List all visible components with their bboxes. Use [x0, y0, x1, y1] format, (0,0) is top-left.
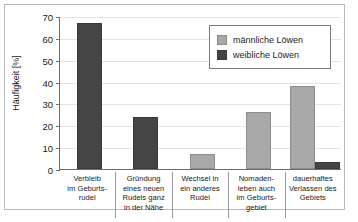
bar-male-2	[190, 154, 215, 169]
x-label-line: Nomaden-	[239, 174, 274, 183]
legend-label-female: weibliche Löwen	[233, 50, 299, 60]
x-label-line: Gründung	[127, 174, 161, 183]
x-label-line: ein anderes	[180, 184, 220, 193]
y-axis-tick-label: 70	[42, 12, 53, 23]
x-label-line: Rudels ganz	[122, 193, 164, 202]
gridline	[60, 17, 341, 18]
x-label-line: Verlassen des	[289, 184, 337, 193]
x-label-line: im Geburts-	[237, 193, 277, 202]
chart-legend: männliche Löwen weibliche Löwen	[209, 25, 331, 69]
x-axis-label-4: dauerhaftesVerlassen desGebiets	[285, 174, 341, 203]
y-axis-tick-label: 40	[42, 77, 53, 88]
y-axis-tick	[56, 83, 60, 84]
x-axis-label-0: Verbleibim Geburts-rudel	[59, 174, 115, 203]
legend-item-female: weibliche Löwen	[217, 47, 323, 62]
x-label-line: gebiet	[246, 203, 267, 212]
x-label-line: eines neuen	[123, 184, 164, 193]
y-axis-tick-label: 10	[42, 143, 53, 154]
x-label-line: leben auch	[238, 184, 275, 193]
legend-item-male: männliche Löwen	[217, 32, 323, 47]
y-axis-tick-label: 60	[42, 33, 53, 44]
legend-label-male: männliche Löwen	[233, 35, 303, 45]
legend-swatch-male-icon	[217, 35, 227, 45]
y-axis-title: Häufigkeit [%]	[11, 23, 21, 143]
x-label-line: Verbleib	[73, 174, 100, 183]
bar-female-1	[133, 117, 158, 169]
bar-male-4	[290, 86, 315, 169]
x-label-line: rudel	[79, 193, 96, 202]
x-axis-label-3: Nomaden-leben auchim Geburts-gebiet	[228, 174, 284, 212]
x-label-line: im Geburts-	[67, 184, 107, 193]
x-label-line: dauerhaftes	[293, 174, 333, 183]
x-label-line: Gebiets	[300, 193, 326, 202]
bar-male-3	[246, 112, 271, 169]
y-axis-tick	[56, 17, 60, 18]
y-axis-tick	[56, 61, 60, 62]
y-axis-tick-label: 0	[48, 165, 53, 176]
x-axis-label-2: Wechsel inein anderesRudel	[172, 174, 228, 203]
y-axis-tick	[56, 148, 60, 149]
y-axis-tick-label: 30	[42, 99, 53, 110]
y-axis-tick	[56, 126, 60, 127]
x-label-line: Rudel	[190, 193, 210, 202]
y-axis-tick	[56, 104, 60, 105]
bar-female-0	[77, 23, 102, 169]
y-axis-tick	[56, 170, 60, 171]
bar-female-4	[315, 162, 340, 169]
x-label-line: in der Nähe	[124, 203, 163, 212]
x-label-line: Wechsel in	[181, 174, 218, 183]
chart-figure: Häufigkeit [%] 010203040506070 Verbleibi…	[0, 0, 358, 222]
y-axis-tick-label: 20	[42, 121, 53, 132]
gridline	[60, 83, 341, 84]
legend-swatch-female-icon	[217, 50, 227, 60]
y-axis-tick	[56, 39, 60, 40]
x-axis-label-1: Gründungeines neuenRudels ganzin der Näh…	[115, 174, 171, 212]
y-axis-tick-label: 50	[42, 55, 53, 66]
